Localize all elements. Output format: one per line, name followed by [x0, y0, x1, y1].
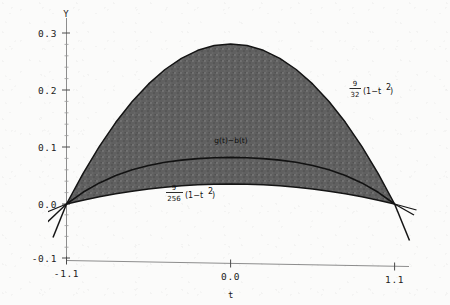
lower-label-close: ) — [212, 191, 215, 200]
x-tick-label-2: 1.1 — [385, 274, 404, 285]
x-axis-ticks — [67, 257, 395, 271]
x-tick-label-1: 0.0 — [221, 271, 240, 282]
upper-label-denominator: 32 — [351, 91, 360, 99]
shaded-region — [67, 44, 395, 204]
x-axis-title: t — [228, 290, 233, 300]
lower-label-tail: (1−t — [185, 191, 203, 200]
chart-figure: 0.3 0.2 0.1 0.0 -0.1 Y -1.1 0.0 1.1 t 9 … — [0, 0, 450, 305]
y-tick-label-0: 0.3 — [38, 28, 57, 39]
middle-curve-label: g(t)−b(t) — [214, 136, 247, 145]
x-tick-label-0: -1.1 — [54, 268, 79, 279]
upper-label-numerator: 9 — [353, 80, 357, 88]
upper-label-close: ) — [390, 87, 393, 96]
x-axis-line — [66, 261, 409, 267]
plot-svg: 0.3 0.2 0.1 0.0 -0.1 Y -1.1 0.0 1.1 t 9 … — [0, 0, 450, 305]
y-tick-label-1: 0.2 — [38, 85, 57, 96]
y-tick-label-4: -0.1 — [32, 253, 57, 264]
fill-between-envelopes — [67, 44, 395, 204]
lower-label-numerator: 9 — [172, 184, 176, 192]
upper-curve-label: 9 32 (1−t 2 ) — [350, 80, 394, 99]
y-tick-label-3: 0.0 — [38, 199, 57, 210]
lower-label-denominator: 256 — [167, 195, 181, 203]
y-tick-label-2: 0.1 — [38, 142, 57, 153]
y-axis-title: Y — [63, 9, 69, 19]
right-continuation-lower — [395, 204, 417, 210]
lower-curve-label: 9 256 (1−t 2 ) — [166, 184, 215, 203]
upper-label-tail: (1−t — [363, 87, 381, 96]
right-continuation-upper — [395, 204, 410, 241]
